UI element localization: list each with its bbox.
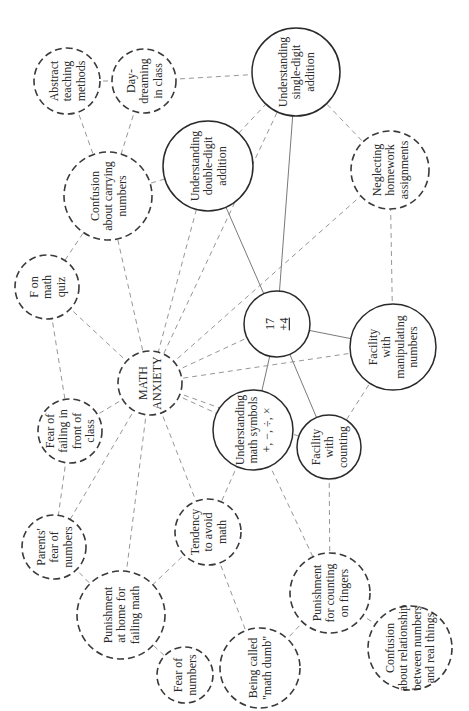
node-fearnum: Fear ofnumbers: [157, 647, 213, 703]
node-fquiz: F onmathquiz: [15, 255, 79, 319]
node-problem: 17+4: [244, 291, 310, 357]
node-label: Abstractteachingmethods: [47, 60, 88, 101]
node-symbols: Understandingmath symbols+, −, ÷, ×: [213, 390, 293, 470]
node-single: Understandingsingle-digitaddition: [252, 28, 340, 116]
node-label: 17+4: [263, 318, 291, 331]
node-relation: Confusionabout relationshipbetween numbe…: [368, 605, 452, 691]
node-label: Neglectinghomeworkassignments: [370, 140, 411, 199]
nodes-layer: AbstractteachingmethodsDay-dreamingin cl…: [15, 28, 452, 708]
node-counting: Facilitywithcounting: [297, 415, 361, 479]
node-avoid: Tendencyto avoidmath: [175, 499, 241, 565]
node-parents: Parents'fear ofnumbers: [22, 515, 86, 579]
node-label: Fear ofnumbers: [171, 654, 199, 696]
concept-map: AbstractteachingmethodsDay-dreamingin cl…: [0, 0, 469, 711]
node-punishhome: Punishmentat home forfailing math: [77, 571, 165, 659]
node-failclass: Fear offailing infront ofclass: [38, 399, 102, 463]
node-abstract: Abstractteachingmethods: [34, 48, 100, 114]
node-label: Punishmentat home forfailing math: [101, 586, 142, 644]
node-anxiety: MATHANXIETY: [118, 351, 182, 415]
node-homework: Neglectinghomeworkassignments: [351, 131, 429, 209]
node-label: F onmathquiz: [27, 275, 68, 299]
node-double: Understandingdouble-digitaddition: [163, 121, 253, 211]
node-label: Being called"math dumb": [246, 636, 274, 700]
node-manip: Facilitywithmanipulatingnumbers: [350, 304, 436, 390]
node-dumb: Being called"math dumb": [220, 628, 300, 708]
node-punishfingers: Punishmentfor countingon fingers: [290, 553, 370, 633]
node-carrying: Confusionabout carryingnumbers: [64, 152, 152, 240]
node-label: Punishmentfor countingon fingers: [310, 564, 351, 623]
node-label: Parents'fear ofnumbers: [34, 526, 75, 568]
node-daydream: Day-dreamingin class: [112, 49, 176, 113]
